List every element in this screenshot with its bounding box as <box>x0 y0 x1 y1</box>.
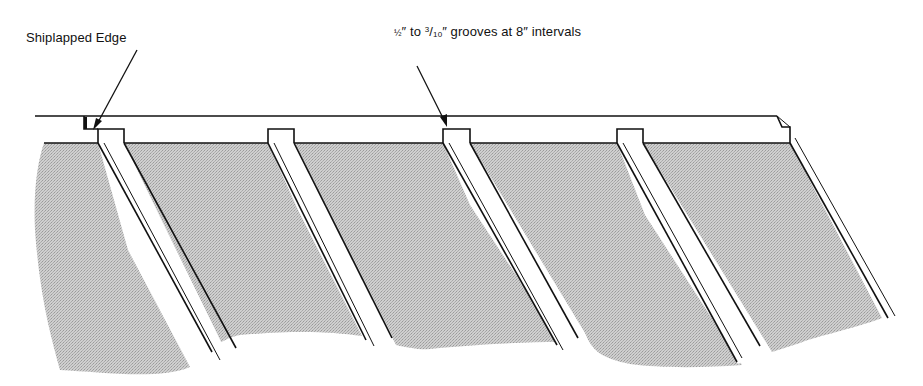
grooves-label: ½″ to 3/10″ grooves at 8″ intervals <box>394 24 581 39</box>
inch-mark: ″ <box>523 24 528 39</box>
shiplap-leader-line <box>96 50 137 126</box>
grooves-at-text: grooves at 8 <box>451 24 524 39</box>
grooves-leader-line <box>417 66 444 120</box>
panel-diagram <box>0 0 923 386</box>
shiplap-lip <box>84 117 87 129</box>
fraction-numerator: 3 <box>425 25 430 34</box>
shiplap-rabbet-right <box>777 116 790 143</box>
inch-mark: ″ <box>442 24 447 39</box>
intervals-text: intervals <box>532 24 581 39</box>
board-outline <box>35 116 790 143</box>
to-word: to <box>410 24 421 39</box>
groove-width-min: ½ <box>394 28 402 38</box>
fraction-denominator: 10 <box>433 30 442 39</box>
shiplapped-edge-label: Shiplapped Edge <box>26 30 127 45</box>
callout-leaders <box>93 50 447 130</box>
inch-mark: ″ <box>402 24 407 39</box>
